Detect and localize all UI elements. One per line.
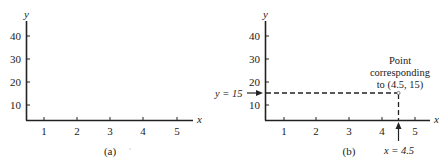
figure: 40 30 20 10 1 2 3 4 5 y x (a)	[0, 0, 444, 165]
y-axis-label: y	[262, 8, 268, 20]
x-axis-label: x	[196, 113, 202, 125]
x-tick-label: 3	[107, 125, 113, 137]
x-tick-label: 5	[412, 125, 418, 137]
y-axis-label: y	[23, 8, 29, 20]
x-tick-label: 4	[379, 125, 385, 137]
point-annotation-line2: corresponding	[370, 67, 431, 78]
y-tick-label: 20	[249, 76, 261, 88]
panel-label: (a)	[104, 145, 117, 158]
panel-label: (b)	[343, 145, 356, 158]
y-tick-label: 40	[10, 30, 22, 42]
x-tick-label: 2	[313, 125, 319, 137]
x-axis-label: x	[433, 113, 439, 125]
y-tick-label: 10	[10, 99, 22, 111]
panel-b: 40 30 20 10 1 2 3 4 5 y x y = 15 x = 4.5…	[214, 8, 439, 158]
y-tick-label: 30	[249, 53, 261, 65]
y-marker-label: y = 15	[214, 88, 243, 99]
point-annotation-line3: to (4.5, 15)	[377, 79, 424, 91]
panel-a: 40 30 20 10 1 2 3 4 5 y x (a)	[10, 8, 202, 158]
x-tick-label: 3	[346, 125, 352, 137]
data-point	[397, 91, 400, 94]
x-tick-label: 1	[41, 125, 47, 137]
y-tick-label: 10	[249, 99, 261, 111]
x-tick-label: 1	[281, 125, 287, 137]
x-tick-label: 5	[174, 125, 180, 137]
point-annotation-line1: Point	[389, 55, 411, 66]
stray-dot	[129, 148, 130, 149]
x-tick-label: 2	[74, 125, 80, 137]
arrow-up-icon	[396, 122, 402, 129]
y-tick-label: 30	[10, 53, 22, 65]
arrow-right-icon	[256, 90, 263, 96]
x-marker-label: x = 4.5	[383, 145, 414, 156]
y-tick-label: 40	[249, 30, 261, 42]
y-tick-label: 20	[10, 76, 22, 88]
x-tick-label: 4	[140, 125, 146, 137]
